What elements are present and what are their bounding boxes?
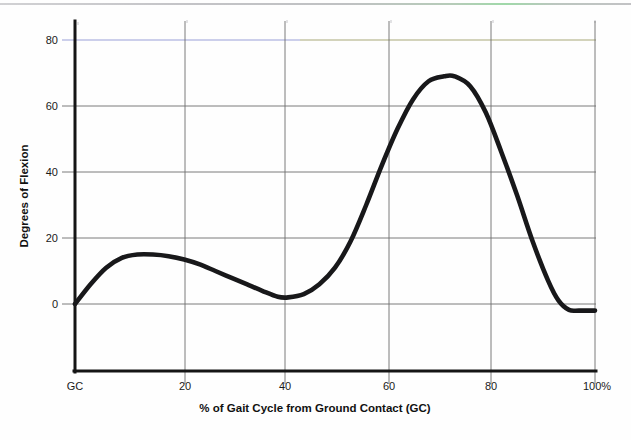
- y-tick-label-40: 40: [46, 166, 58, 178]
- x-tick-labels: GC 20 40 60 80 100%: [67, 380, 612, 392]
- x-tick-label-gc: GC: [67, 380, 84, 392]
- x-tick-label-20: 20: [179, 380, 191, 392]
- y-tick-labels: 80 60 40 20 0: [46, 34, 58, 310]
- horizontal-gridlines: [62, 40, 596, 304]
- x-tick-label-100: 100%: [583, 380, 611, 392]
- knee-flexion-curve: [75, 75, 595, 311]
- y-tick-label-80: 80: [46, 34, 58, 46]
- gait-chart-figure: 80 60 40 20 0 GC 20 40 60 80 100% % of G…: [0, 0, 631, 440]
- vertical-gridlines: [185, 21, 595, 384]
- y-axis-title: Degrees of Flexion: [18, 145, 30, 248]
- x-tick-label-60: 60: [383, 380, 395, 392]
- y-tick-label-60: 60: [46, 100, 58, 112]
- x-tick-label-40: 40: [279, 380, 291, 392]
- x-tick-label-80: 80: [485, 380, 497, 392]
- x-axis-title: % of Gait Cycle from Ground Contact (GC): [199, 402, 430, 414]
- y-tick-label-0: 0: [52, 298, 58, 310]
- chart-canvas: 80 60 40 20 0 GC 20 40 60 80 100% % of G…: [0, 0, 631, 440]
- y-tick-label-20: 20: [46, 232, 58, 244]
